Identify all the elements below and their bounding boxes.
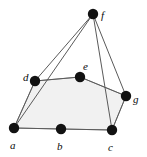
graph-vertex-f: [88, 9, 98, 19]
graph-vertex-d: [30, 76, 40, 86]
vertex-label-e: e: [83, 61, 88, 72]
vertex-label-a: a: [10, 140, 16, 151]
vertex-label-c: c: [108, 142, 113, 153]
vertex-label-b: b: [57, 141, 63, 152]
graph-vertex-g: [121, 91, 131, 101]
graph-vertex-c: [107, 125, 117, 135]
vertex-label-g: g: [133, 94, 139, 105]
graph-vertex-e: [75, 72, 85, 82]
graph-vertex-b: [56, 124, 66, 134]
graph-edge-fg: [93, 14, 126, 96]
vertex-label-d: d: [23, 72, 29, 83]
graph-vertex-a: [9, 123, 19, 133]
graph-figure: abcdefg: [0, 0, 147, 157]
vertex-label-f: f: [101, 10, 104, 21]
